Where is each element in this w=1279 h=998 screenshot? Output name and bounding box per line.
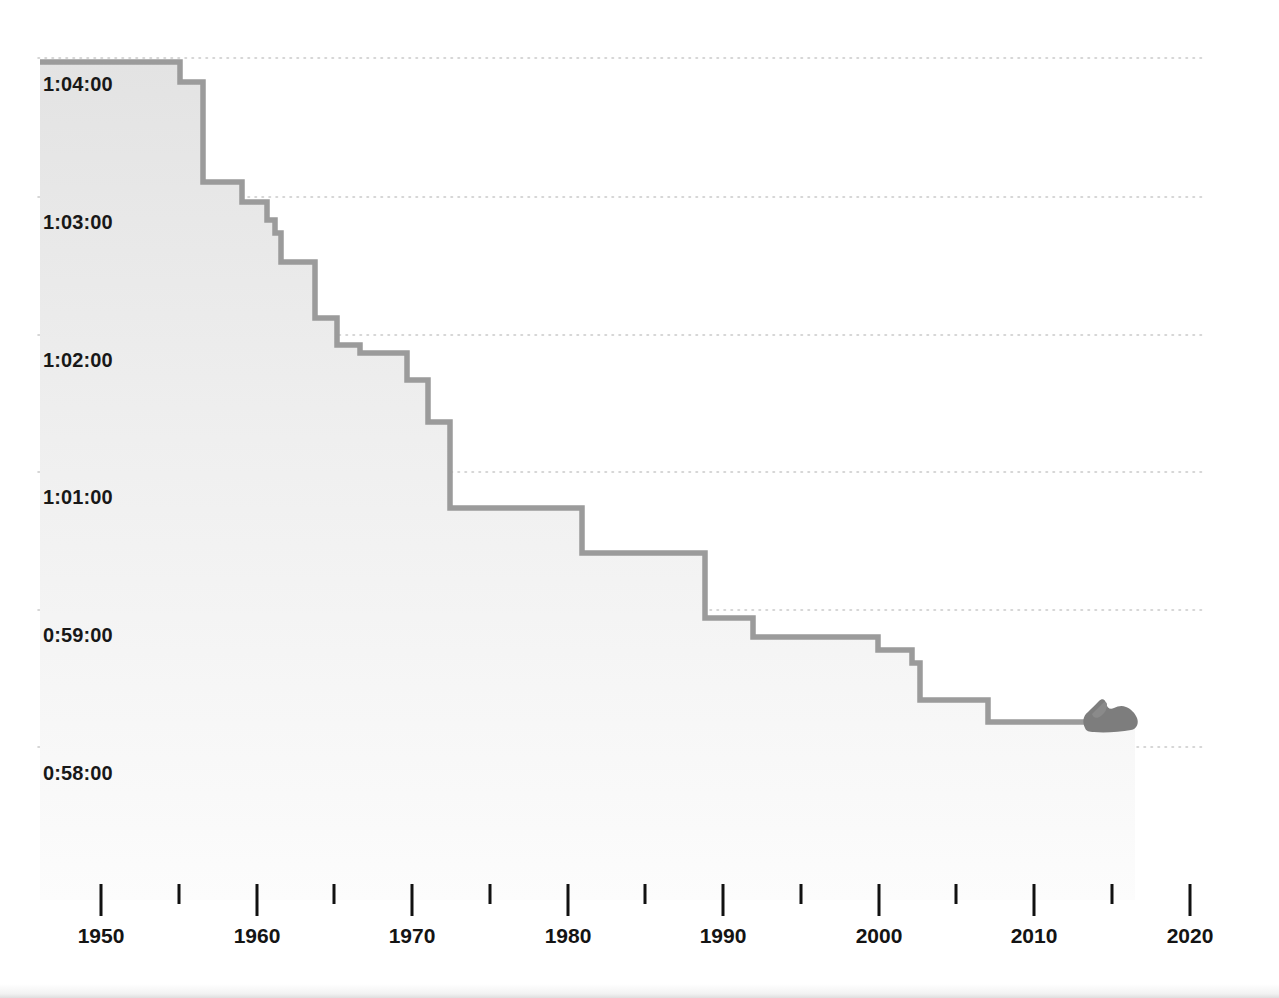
x-tick-2020 [1189,884,1192,916]
x-tick-label-1990: 1990 [700,925,747,946]
x-tick-1955 [178,884,181,904]
y-tick-label-1: 1:03:00 [43,212,113,232]
x-tick-1965 [333,884,336,904]
y-tick-label-5: 0:58:00 [43,763,113,783]
x-tick-label-2000: 2000 [856,925,903,946]
y-tick-label-0: 1:04:00 [43,74,113,94]
y-tick-label-3: 1:01:00 [43,487,113,507]
y-tick-label-4: 0:59:00 [43,625,113,645]
x-tick-2015 [1111,884,1114,904]
x-tick-1995 [800,884,803,904]
x-tick-label-1960: 1960 [234,925,281,946]
x-tick-2010 [1033,884,1036,916]
x-tick-label-1980: 1980 [545,925,592,946]
x-tick-1970 [411,884,414,916]
x-tick-2005 [955,884,958,904]
y-tick-label-2: 1:02:00 [43,350,113,370]
running-shoe-icon [1083,699,1137,732]
chart-plot-area [0,0,1279,998]
chart-container: 1:04:00 1:03:00 1:02:00 1:01:00 0:59:00 … [0,0,1279,998]
x-tick-1980 [567,884,570,916]
x-tick-label-2020: 2020 [1167,925,1214,946]
x-tick-1990 [722,884,725,916]
x-tick-2000 [878,884,881,916]
x-tick-label-2010: 2010 [1011,925,1058,946]
record-area-fill [40,62,1135,900]
x-tick-1985 [644,884,647,904]
x-tick-1950 [100,884,103,916]
x-tick-1975 [489,884,492,904]
x-tick-label-1950: 1950 [78,925,125,946]
x-tick-1960 [256,884,259,916]
x-tick-label-1970: 1970 [389,925,436,946]
